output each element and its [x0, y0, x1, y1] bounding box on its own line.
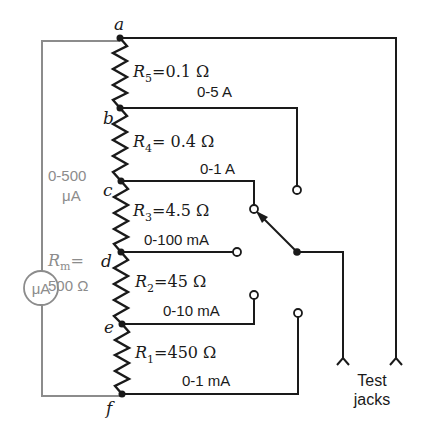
- node-c-dot: [118, 178, 125, 185]
- r5-value-label: R5=0.1 Ω: [132, 62, 209, 85]
- meter-wire-top: [42, 41, 120, 271]
- resistor-labels: R5=0.1 Ω 0-5 A R4= 0.4 Ω 0-1 A R3=4.5 Ω …: [132, 62, 235, 389]
- test-jack-left-icon[interactable]: [337, 358, 349, 365]
- r4-value-label: R4= 0.4 Ω: [132, 132, 214, 155]
- test-jacks[interactable]: Test jacks: [337, 358, 402, 408]
- node-b-dot: [117, 105, 124, 112]
- meter-range-line2: μA: [62, 187, 81, 204]
- node-b-label: b: [103, 108, 114, 128]
- test-jack-right-icon[interactable]: [390, 358, 402, 365]
- resistor-r4: [113, 108, 127, 181]
- test-jacks-label-line2: jacks: [353, 391, 390, 408]
- r4-range-label: 0-1 A: [200, 160, 235, 177]
- r2-value-label: R2=45 Ω: [134, 272, 206, 295]
- r2-range-label: 0-10 mA: [163, 302, 220, 319]
- resistor-r2: [114, 252, 128, 324]
- terminal-10ma[interactable]: [250, 291, 258, 299]
- r3-range-label: 0-100 mA: [144, 231, 209, 248]
- node-a-dot: [117, 35, 124, 42]
- range-selector-switch[interactable]: [233, 186, 302, 317]
- switch-pivot-dot: [293, 248, 301, 256]
- resistor-r5: [113, 38, 127, 108]
- node-a-label: a: [114, 14, 124, 34]
- r1-range-label: 0-1 mA: [182, 372, 230, 389]
- r1-value-label: R1=450 Ω: [134, 343, 216, 366]
- node-f-label: f: [104, 398, 115, 418]
- node-d-dot: [118, 249, 125, 256]
- wire-switch-to-jack: [297, 252, 343, 358]
- resistor-r1: [115, 324, 129, 394]
- test-jacks-label-line1: Test: [357, 372, 387, 389]
- node-e-dot: [119, 321, 126, 328]
- node-f-dot: [119, 391, 126, 398]
- terminal-5a[interactable]: [293, 186, 301, 194]
- node-e-label: e: [104, 317, 114, 337]
- terminal-1ma[interactable]: [294, 309, 302, 317]
- ayrton-shunt-ammeter-diagram: μA 0-500 μA Rm= 500 Ω: [0, 0, 426, 436]
- wire-a-to-jack: [120, 38, 396, 358]
- node-d-label: d: [101, 251, 112, 271]
- meter-resistance-symbol: Rm=: [47, 251, 84, 273]
- meter-resistance-value: 500 Ω: [48, 277, 88, 294]
- terminal-1a[interactable]: [250, 205, 258, 213]
- r5-range-label: 0-5 A: [197, 83, 232, 100]
- meter-range-line1: 0-500: [48, 167, 86, 184]
- r3-value-label: R3=4.5 Ω: [132, 201, 209, 224]
- meter-branch: μA 0-500 μA Rm= 500 Ω: [24, 41, 122, 396]
- resistor-chain: [113, 38, 129, 394]
- resistor-r3: [114, 181, 128, 252]
- node-c-label: c: [103, 180, 113, 200]
- terminal-100ma[interactable]: [233, 248, 241, 256]
